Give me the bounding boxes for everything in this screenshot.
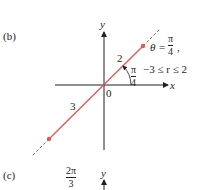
r-range: −3 ≤ r ≤ 2 [143,64,187,75]
segment-label-lower: 3 [70,101,76,112]
endpoint-lower [47,137,51,141]
ray-segment [49,46,143,139]
angle-fraction: π 4 [131,65,136,88]
theta-symbol: θ [150,42,155,53]
x-axis-label: x [170,80,175,91]
theta-fraction: π 4 [168,34,173,57]
panel-c-y-label: y [101,168,106,179]
angle-arc [123,66,131,85]
endpoint-upper [141,44,145,48]
comma: , [177,42,180,53]
y-axis-label: y [100,19,105,30]
panel-c-label: (c) [3,170,15,181]
equals-sign: = [159,42,165,53]
panel-b-label: (b) [3,31,16,42]
origin-label: 0 [106,88,112,99]
panel-c-angle-fraction: 2π 3 [66,166,76,189]
segment-label-upper: 2 [117,53,123,64]
ray-extension-lower [32,139,49,156]
